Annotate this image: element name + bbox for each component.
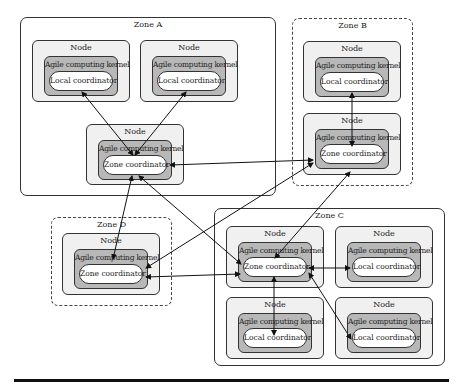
kernel-label: Agile computing kernel [348,317,420,326]
local-coordinator: Local coordinator [352,328,416,348]
node-d-zone: Node Agile computing kernel Zone coordin… [62,233,160,295]
node-label: Node [141,43,237,52]
zone-coordinator: Zone coordinator [243,257,307,277]
zone-d-label: Zone D [52,220,171,229]
local-coordinator: Local coordinator [352,257,416,277]
node-label: Node [336,229,432,238]
horizontal-rule [14,379,449,382]
node-c4: Node Agile computing kernel Local coordi… [335,297,433,359]
agile-computing-kernel: Agile computing kernel Zone coordinator [315,129,389,169]
node-label: Node [33,43,129,52]
agile-computing-kernel: Agile computing kernel Zone coordinator [98,140,172,180]
kernel-label: Agile computing kernel [75,253,147,262]
node-label: Node [63,236,159,245]
node-a-zone: Node Agile computing kernel Zone coordin… [86,124,184,185]
local-coordinator: Local coordinator [320,72,384,92]
node-b-zone: Node Agile computing kernel Zone coordin… [303,113,401,175]
zone-coordinator: Zone coordinator [103,155,167,175]
node-label: Node [336,300,432,309]
agile-computing-kernel: Agile computing kernel Zone coordinator [74,249,148,289]
zone-c-label: Zone C [215,211,444,220]
node-label: Node [227,300,323,309]
node-b1: Node Agile computing kernel Local coordi… [303,41,401,102]
zone-b-label: Zone B [293,21,412,30]
node-c2: Node Agile computing kernel Local coordi… [335,226,433,288]
kernel-label: Agile computing kernel [348,246,420,255]
kernel-label: Agile computing kernel [239,246,311,255]
kernel-label: Agile computing kernel [45,60,117,69]
agile-computing-kernel: Agile computing kernel Local coordinator [152,56,226,96]
node-c3: Node Agile computing kernel Local coordi… [226,297,324,359]
local-coordinator: Local coordinator [243,328,307,348]
node-label: Node [227,229,323,238]
node-label: Node [87,127,183,136]
local-coordinator: Local coordinator [157,71,221,91]
agile-computing-kernel: Agile computing kernel Local coordinator [347,313,421,353]
node-label: Node [304,116,400,125]
node-a1: Node Agile computing kernel Local coordi… [32,40,130,102]
agile-computing-kernel: Agile computing kernel Local coordinator [315,57,389,97]
kernel-label: Agile computing kernel [99,144,171,153]
local-coordinator: Local coordinator [49,71,113,91]
agile-computing-kernel: Agile computing kernel Local coordinator [44,56,118,96]
agile-computing-kernel: Agile computing kernel Local coordinator [347,242,421,282]
node-label: Node [304,44,400,53]
node-a2: Node Agile computing kernel Local coordi… [140,40,238,102]
agile-computing-kernel: Agile computing kernel Zone coordinator [238,242,312,282]
kernel-label: Agile computing kernel [316,61,388,70]
kernel-label: Agile computing kernel [316,133,388,142]
zone-coordinator: Zone coordinator [320,144,384,164]
node-c-zone: Node Agile computing kernel Zone coordin… [226,226,324,288]
zone-coordinator: Zone coordinator [79,264,143,284]
kernel-label: Agile computing kernel [153,60,225,69]
zone-a-label: Zone A [21,20,275,29]
kernel-label: Agile computing kernel [239,317,311,326]
agile-computing-kernel: Agile computing kernel Local coordinator [238,313,312,353]
